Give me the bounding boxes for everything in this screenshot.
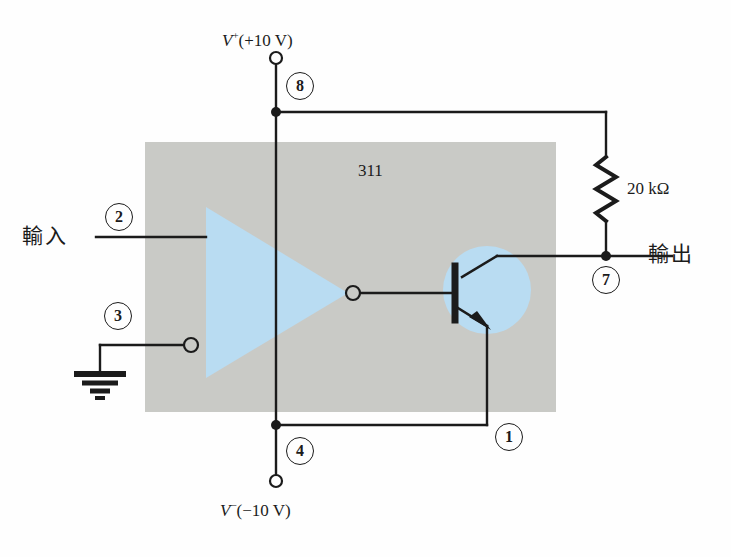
ground-symbol	[74, 374, 126, 398]
terminal-pin3	[184, 338, 198, 352]
vplus-label: V+(+10 V)	[222, 30, 293, 49]
part-number-label: 311	[358, 162, 383, 179]
terminal-comparator-output	[346, 286, 360, 300]
pin-8-bubble: 8	[286, 72, 314, 100]
vminus-value: (−10 V)	[237, 501, 291, 520]
vplus-symbol: V	[222, 31, 232, 50]
terminal-vminus	[270, 475, 282, 487]
circuit-diagram: V+(+10 V) V−(−10 V) 輸入 輸出 20 kΩ 311 8 2 …	[0, 0, 731, 557]
pin-4-bubble: 4	[286, 437, 314, 465]
input-label: 輸入	[22, 226, 68, 247]
vminus-symbol: V	[220, 501, 230, 520]
vplus-value: (+10 V)	[239, 31, 293, 50]
pin-7-bubble: 7	[592, 266, 620, 294]
output-label: 輸出	[648, 244, 694, 265]
terminal-vplus	[270, 52, 282, 64]
junction-dot-vminus	[271, 420, 281, 430]
pin-2-bubble: 2	[105, 203, 133, 231]
resistor-zigzag	[596, 157, 616, 221]
pin-1-bubble: 1	[495, 423, 523, 451]
junction-dot-vplus	[271, 107, 281, 117]
junction-dot-output	[601, 251, 611, 261]
circuit-schematic-svg	[0, 0, 731, 557]
pin-3-bubble: 3	[104, 302, 132, 330]
vminus-label: V−(−10 V)	[220, 500, 291, 519]
resistor-value-label: 20 kΩ	[627, 180, 669, 197]
